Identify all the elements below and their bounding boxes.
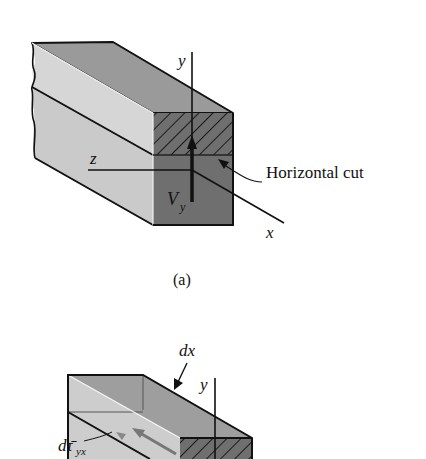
- figure-a-beam: [32, 42, 233, 225]
- caption-a: (a): [173, 271, 191, 289]
- label-y-b: y: [198, 375, 208, 394]
- element-end-face-hatched: [180, 438, 252, 459]
- label-shear-force-sub: y: [179, 200, 186, 214]
- label-z-a: z: [89, 149, 97, 168]
- label-shear-stress-sub: yx: [75, 445, 86, 457]
- label-y-a: y: [176, 51, 186, 70]
- label-dx: dx: [179, 341, 196, 360]
- dx-leader-line: [178, 363, 187, 382]
- diagram-canvas: y z x V y Horizontal cut (a) dx y dτ̄ yx: [0, 0, 426, 459]
- figure-b-element: [68, 375, 252, 459]
- label-horizontal-cut: Horizontal cut: [266, 163, 364, 182]
- label-x-a: x: [265, 223, 274, 242]
